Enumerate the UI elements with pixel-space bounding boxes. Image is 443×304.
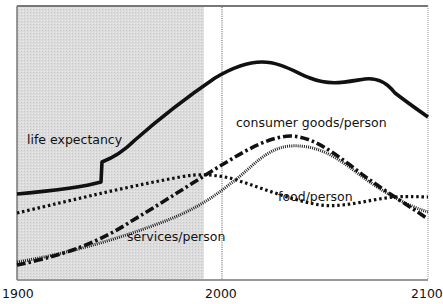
label-life-expectancy: life expectancy bbox=[27, 134, 122, 147]
label-services-per-person: services/person bbox=[127, 231, 225, 244]
x-tick-2000: 2000 bbox=[205, 288, 237, 301]
label-food-per-person: food/person bbox=[278, 191, 353, 204]
x-tick-1900: 1900 bbox=[2, 288, 34, 301]
x-tick-2100: 2100 bbox=[411, 288, 443, 301]
label-consumer-goods-per-person: consumer goods/person bbox=[236, 117, 387, 130]
